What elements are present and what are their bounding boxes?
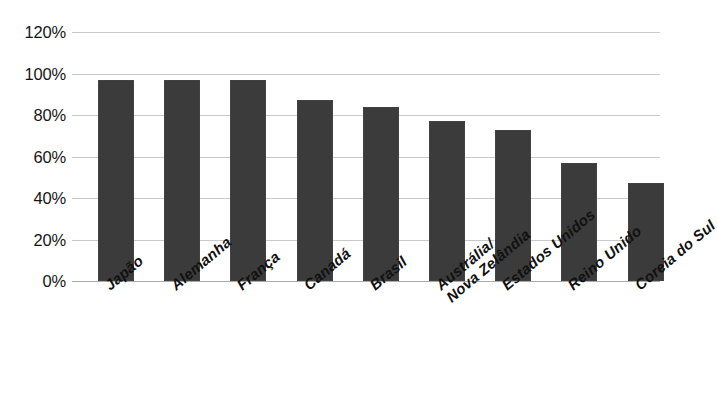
y-tick-label: 0% xyxy=(2,273,66,290)
x-axis-category-labels: JapãoAlemanhaFrançaCanadáBrasilAustrália… xyxy=(72,281,686,404)
y-tick-label: 60% xyxy=(2,148,66,165)
y-tick-label: 40% xyxy=(2,190,66,207)
y-tick-label: 80% xyxy=(2,107,66,124)
bar xyxy=(98,80,134,281)
bar xyxy=(363,107,399,281)
y-tick-label: 120% xyxy=(2,24,66,41)
y-tick-label: 20% xyxy=(2,231,66,248)
y-tick-label: 100% xyxy=(2,65,66,82)
bar xyxy=(297,100,333,281)
bar xyxy=(230,80,266,281)
bar xyxy=(164,80,200,281)
bars-container xyxy=(72,32,660,281)
y-axis-tick-labels: 120%100%80%60%40%20%0% xyxy=(0,32,66,281)
